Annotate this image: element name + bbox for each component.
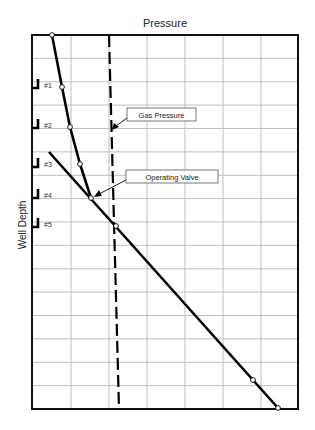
valve-label: #4 <box>44 192 52 199</box>
valve-5: #5 <box>33 218 52 228</box>
grid <box>32 35 298 409</box>
callout-arrow-line <box>116 118 127 126</box>
well-depth-pressure-diagram: Pressure Well Depth <box>0 0 315 430</box>
point-marker <box>251 378 256 383</box>
valve-1: #1 <box>33 79 52 89</box>
valve-bracket-icon <box>33 119 38 128</box>
valve-label: #3 <box>44 161 52 168</box>
valve-bracket-icon <box>33 218 38 227</box>
valve-bracket-icon <box>33 158 38 167</box>
fluid-gradient-line <box>49 152 278 408</box>
data-point-markers <box>50 33 281 411</box>
point-marker <box>276 406 281 411</box>
callout-label: Gas Pressure <box>139 111 185 120</box>
point-marker <box>60 85 65 90</box>
valve-3: #3 <box>33 158 52 168</box>
point-marker <box>68 125 73 130</box>
point-marker <box>89 196 94 201</box>
valve-bracket-icon <box>33 189 38 198</box>
valve-label: #5 <box>44 221 52 228</box>
valve-bracket-icon <box>33 79 38 88</box>
unloading-gradient-curve <box>52 35 91 198</box>
callout-label: Operating Valve <box>145 173 198 182</box>
valve-label: #1 <box>44 82 52 89</box>
point-marker <box>114 224 119 229</box>
gas-pressure-callout: Gas Pressure <box>112 108 196 130</box>
valve-4: #4 <box>33 189 52 199</box>
chart-title: Pressure <box>143 17 187 29</box>
point-marker <box>50 33 55 38</box>
y-axis-label: Well Depth <box>17 201 28 250</box>
point-marker <box>78 162 83 167</box>
valve-label: #2 <box>44 122 52 129</box>
valve-2: #2 <box>33 119 52 129</box>
